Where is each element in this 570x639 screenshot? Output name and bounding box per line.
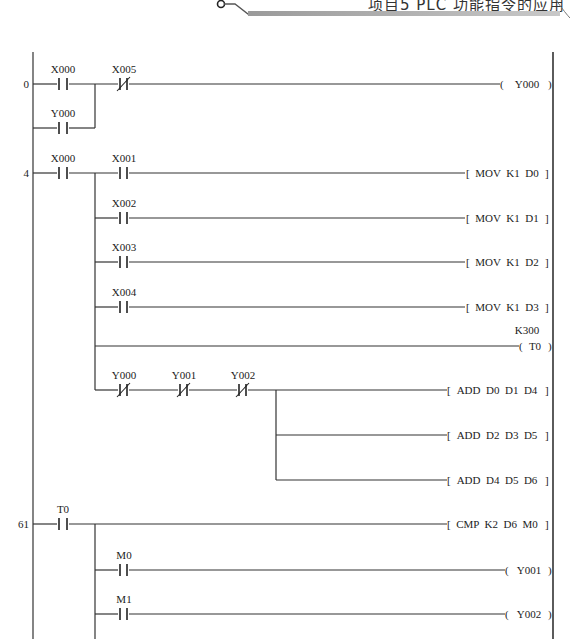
instruction-mov-d0[interactable]: [ MOV K1 D0 ] — [466, 167, 549, 179]
svg-text:[: [ — [447, 474, 451, 486]
contact-no-x001[interactable] — [120, 167, 127, 179]
header-dot-icon — [218, 1, 225, 8]
svg-text:]: ] — [545, 518, 549, 530]
svg-text:MOV K1 D0: MOV K1 D0 — [475, 167, 539, 179]
contact-no-x002[interactable] — [120, 212, 127, 224]
svg-text:ADD D2 D3 D5: ADD D2 D3 D5 — [457, 429, 538, 441]
instruction-cmp[interactable]: [ CMP K2 D6 M0 ] — [447, 518, 549, 530]
svg-text:]: ] — [545, 212, 549, 224]
header-decoration — [218, 0, 570, 18]
svg-text:CMP K2 D6 M0: CMP K2 D6 M0 — [456, 518, 538, 530]
instruction-add-d6[interactable]: [ ADD D4 D5 D6 ] — [447, 474, 549, 486]
svg-text:(: ( — [505, 608, 509, 621]
ladder-diagram: 0 4 61 X000 X005 Y000 X000 X001 X002 X00… — [0, 0, 570, 639]
contact-label: M1 — [116, 593, 131, 605]
svg-text:]: ] — [545, 474, 549, 486]
step-number: 0 — [24, 78, 30, 90]
coil-t0[interactable]: ( T0 ) — [519, 340, 552, 353]
contact-label: M0 — [116, 549, 132, 561]
contact-label: X000 — [51, 152, 76, 164]
header-bar — [248, 11, 560, 16]
contact-label: X005 — [112, 63, 137, 75]
instruction-mov-d1[interactable]: [ MOV K1 D1 ] — [466, 212, 549, 224]
svg-text:): ) — [548, 340, 552, 353]
svg-text:]: ] — [545, 384, 549, 396]
contact-label: T0 — [57, 503, 70, 515]
svg-text:ADD D4 D5 D6: ADD D4 D5 D6 — [457, 474, 538, 486]
svg-text:MOV K1 D2: MOV K1 D2 — [475, 256, 538, 268]
contact-label: Y000 — [112, 369, 137, 381]
svg-text:]: ] — [545, 167, 549, 179]
svg-text:MOV K1 D1: MOV K1 D1 — [475, 212, 538, 224]
contact-no-m0[interactable] — [120, 564, 127, 576]
svg-text:): ) — [548, 78, 552, 91]
svg-text:(: ( — [519, 340, 523, 353]
contact-label: X001 — [112, 152, 136, 164]
svg-text:[: [ — [466, 167, 470, 179]
contact-label: X004 — [112, 286, 137, 298]
contact-label: X002 — [112, 197, 136, 209]
contact-nc-y002[interactable] — [236, 383, 249, 397]
coil-label: Y002 — [517, 608, 541, 620]
contact-label: X003 — [112, 241, 137, 253]
svg-text:[: [ — [447, 384, 451, 396]
contact-label: X000 — [51, 63, 76, 75]
instruction-mov-d2[interactable]: [ MOV K1 D2 ] — [466, 256, 549, 268]
contact-nc-y001[interactable] — [177, 383, 190, 397]
contact-no-x000-rung4[interactable] — [59, 167, 67, 179]
contact-no-m1[interactable] — [120, 608, 127, 620]
svg-text:[: [ — [447, 429, 451, 441]
svg-text:[: [ — [466, 212, 470, 224]
contact-no-x000-rung0[interactable] — [59, 78, 67, 90]
svg-text:ADD D0 D1 D4: ADD D0 D1 D4 — [457, 384, 538, 396]
svg-text:(: ( — [505, 564, 509, 577]
svg-text:(: ( — [500, 78, 504, 91]
contact-no-y000-parallel[interactable] — [59, 122, 67, 134]
coil-y000[interactable]: ( Y000 ) — [500, 78, 552, 91]
coil-label: Y001 — [517, 564, 541, 576]
coil-y002[interactable]: ( Y002 ) — [505, 608, 552, 621]
contact-nc-y000[interactable] — [117, 383, 130, 397]
contact-label: Y000 — [51, 107, 76, 119]
step-number: 61 — [18, 518, 29, 530]
svg-text:]: ] — [545, 301, 549, 313]
contact-no-t0[interactable] — [59, 518, 67, 530]
svg-text:MOV K1 D3: MOV K1 D3 — [475, 301, 539, 313]
contact-nc-x005[interactable] — [117, 77, 130, 91]
timer-preset: K300 — [515, 324, 540, 336]
coil-label: Y000 — [515, 78, 540, 90]
instruction-add-d5[interactable]: [ ADD D2 D3 D5 ] — [447, 429, 549, 441]
instruction-mov-d3[interactable]: [ MOV K1 D3 ] — [466, 301, 549, 313]
contact-label: Y001 — [172, 369, 196, 381]
svg-text:]: ] — [545, 256, 549, 268]
svg-text:[: [ — [447, 518, 451, 530]
coil-label: T0 — [529, 340, 542, 352]
svg-text:]: ] — [545, 429, 549, 441]
svg-text:[: [ — [466, 256, 470, 268]
coil-y001[interactable]: ( Y001 ) — [505, 564, 552, 577]
svg-text:): ) — [548, 564, 552, 577]
contact-no-x003[interactable] — [120, 256, 127, 268]
svg-text:): ) — [548, 608, 552, 621]
instruction-add-d4[interactable]: [ ADD D0 D1 D4 ] — [447, 384, 549, 396]
svg-text:[: [ — [466, 301, 470, 313]
step-number: 4 — [24, 167, 30, 179]
contact-label: Y002 — [231, 369, 255, 381]
contact-no-x004[interactable] — [120, 301, 127, 313]
